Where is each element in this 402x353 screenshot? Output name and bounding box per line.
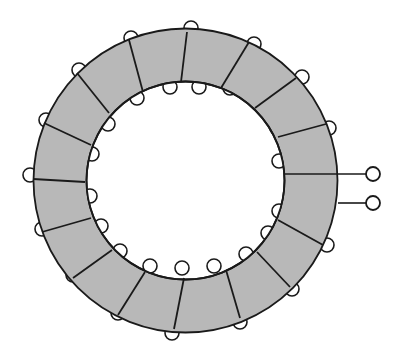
inner-wire-loop: [207, 259, 221, 273]
core-ring: [34, 29, 338, 333]
terminal-1-circle: [366, 167, 380, 181]
inner-wire-loop: [175, 261, 189, 275]
toroidal-core: [34, 29, 338, 333]
toroid-diagram: [0, 0, 402, 353]
toroid-svg: [0, 0, 402, 353]
terminal-2-circle: [366, 196, 380, 210]
